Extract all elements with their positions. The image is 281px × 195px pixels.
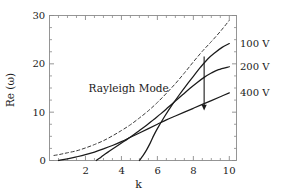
x-tick-label-6: 6 — [154, 165, 160, 176]
series-label-200v: 200 V — [240, 61, 270, 72]
y-axis-title: Re (ω) — [4, 55, 16, 125]
x-tick-label-8: 8 — [190, 165, 196, 176]
y-tick-label-20: 20 — [33, 58, 46, 69]
y-tick-label-0: 0 — [40, 155, 46, 166]
x-tick-label-4: 4 — [118, 165, 124, 176]
y-axis-title-wrapper: Re (ω) — [3, 58, 17, 128]
series-label-100v: 100 V — [240, 38, 270, 49]
chart-figure: 0 10 20 30 2 4 6 8 10 Re (ω) k 100 V 200… — [0, 0, 281, 195]
x-tick-label-10: 10 — [223, 165, 236, 176]
rayleigh-mode-annotation: Rayleigh Mode — [89, 82, 169, 94]
x-tick-label-2: 2 — [82, 165, 88, 176]
y-tick-label-30: 30 — [33, 10, 46, 21]
series-label-400v: 400 V — [240, 87, 270, 98]
x-axis-title: k — [0, 178, 281, 191]
x-axis-title-text: k — [135, 178, 142, 191]
y-tick-label-10: 10 — [33, 107, 46, 118]
